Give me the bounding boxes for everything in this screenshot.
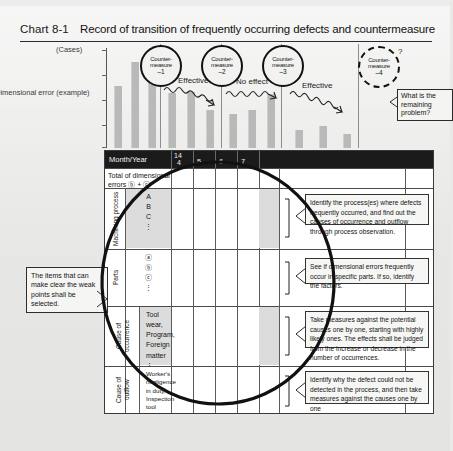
effect-label-2: No effect: [236, 77, 268, 86]
header-col-3: 6: [215, 151, 238, 168]
bar: [114, 86, 122, 148]
row-shade: [259, 307, 279, 365]
chart-number: Chart 8-1: [20, 23, 69, 35]
title-divider: [20, 41, 432, 42]
note-machining-process: Identify the process(es) where defects f…: [305, 194, 429, 225]
row-label-total: Total of dimensional errors ⓑ + ⓒ: [108, 172, 170, 190]
y-axis-label: (Cases): [56, 45, 82, 54]
countermeasure-circle-4: Counter- measure –4: [358, 46, 400, 88]
table-header-row: Month/Year 14 4 5 6 7: [105, 151, 433, 168]
item-value: C: [126, 212, 171, 222]
squiggle-arrow-2: [224, 88, 280, 108]
countermeasure-number: –2: [219, 69, 226, 76]
item-value: ⓑ: [126, 263, 171, 273]
header-month-year: Month/Year: [109, 155, 147, 164]
items-cause-of-occurrence: Tool wear, Program, Foreign matter ⋮: [140, 307, 171, 365]
bar: [248, 110, 256, 148]
brace-outflow: [283, 375, 293, 408]
group-label-parts: Parts: [106, 250, 125, 305]
col-divider: [171, 168, 172, 413]
countermeasure-number: –4: [376, 70, 383, 77]
item-value: ⋮: [126, 283, 171, 293]
y-tick: [102, 125, 107, 126]
items-parts: ⓐ ⓑ ⓒ ⋮: [126, 250, 171, 305]
item-value: Inspection tool: [146, 395, 171, 412]
group-label-cause-of-occurrence: Cause of occurrence: [106, 307, 139, 365]
item-value: B: [126, 202, 171, 212]
bar: [229, 114, 237, 148]
header-month: 7: [241, 157, 245, 166]
group-label-cause-of-outflow: Cause of outflow: [106, 367, 139, 412]
items-machining-process: A B C ⋮: [126, 189, 171, 248]
header-col-4: 7: [237, 151, 260, 168]
question-mark-label: ?: [398, 47, 402, 56]
note-cause-of-outflow: Identify why the defect could not be det…: [305, 371, 429, 404]
row-shade: [259, 189, 279, 248]
group-label-machining-process: Machining process: [106, 190, 125, 248]
countermeasure-number: –1: [158, 69, 165, 76]
col-divider: [279, 168, 280, 413]
bar-chart: (Cases) Dimensional error (example) Coun…: [106, 48, 432, 148]
header-month: 4: [177, 159, 181, 166]
item-value: Foreign matter: [146, 340, 171, 360]
squiggle-arrow-3: [288, 91, 350, 117]
header-year: 14: [174, 152, 182, 159]
page-title: Record of transition of frequently occur…: [80, 23, 435, 35]
row-divider: [105, 168, 433, 169]
countermeasure-number: –3: [280, 69, 287, 76]
item-value: A: [126, 192, 171, 202]
bar: [343, 134, 351, 148]
bar: [319, 126, 327, 148]
effect-label-3: Effective: [302, 81, 333, 90]
bar: [148, 76, 156, 148]
header-col-2: 5: [193, 151, 216, 168]
col-divider: [193, 168, 194, 413]
header-col-5: [259, 151, 280, 168]
remaining-problem-callout: What is the remaining problem?: [397, 89, 453, 121]
brace-machining: [283, 198, 293, 239]
bar: [295, 130, 303, 148]
col-divider: [215, 168, 216, 413]
item-value: Program,: [146, 330, 171, 340]
y-tick: [102, 75, 107, 76]
item-value: ⋮: [126, 222, 171, 232]
bar: [206, 110, 214, 148]
countermeasure-circle-3: Counter- measure –3: [262, 45, 304, 87]
item-value: ⓐ: [126, 253, 171, 263]
y-tick: [102, 147, 107, 148]
items-cause-of-outflow: Worker's negligence in duty, Inspection …: [140, 367, 171, 412]
item-value: Tool wear,: [146, 310, 171, 330]
note-parts: See if dimensional errors frequently occ…: [305, 258, 429, 284]
header-month: 6: [219, 157, 223, 166]
col-divider: [237, 168, 238, 413]
defect-record-table: Month/Year 14 4 5 6 7 Total of dimension…: [104, 150, 434, 414]
header-col-1: 14 4: [171, 151, 194, 168]
chart-title-bar: Chart 8-1 Record of transition of freque…: [20, 22, 432, 44]
item-value: negligence in duty,: [146, 378, 171, 395]
note-cause-of-occurrence: Take measures against the potential caus…: [305, 311, 429, 348]
y-tick: [102, 50, 107, 51]
squiggle-arrow-1: [162, 86, 222, 108]
brace-parts: [283, 261, 293, 296]
brace-occurrence: [283, 316, 293, 357]
y-axis: [106, 48, 107, 148]
dimensional-error-label: Dimensional error (example): [0, 88, 90, 97]
item-value: Worker's: [146, 370, 171, 378]
callout-tail-left: [96, 290, 108, 308]
item-value: ⓒ: [126, 273, 171, 283]
header-month: 5: [197, 157, 201, 166]
countermeasure-circle-1: Counter- measure –1: [140, 45, 182, 87]
y-tick: [102, 100, 107, 101]
bar: [131, 62, 139, 148]
effect-label-1: Effective: [178, 76, 209, 85]
